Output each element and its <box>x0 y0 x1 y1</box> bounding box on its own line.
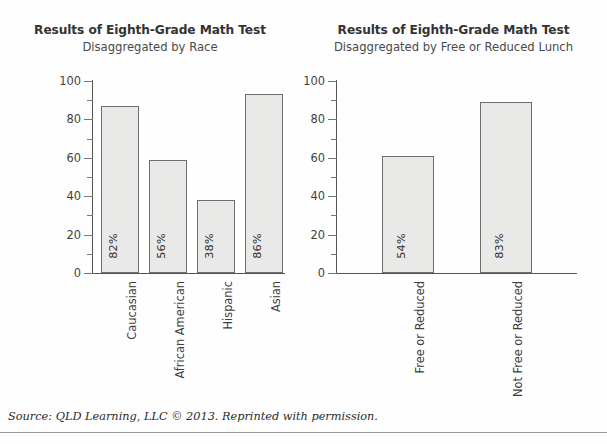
bar-value-free-or-reduced: 54% <box>395 233 408 259</box>
y-tick-label-40: 40 <box>311 189 326 203</box>
x-axis-line <box>336 273 577 274</box>
chart-title-block-right: Results of Eighth-Grade Math Test Disagg… <box>300 22 607 55</box>
chart-title: Results of Eighth-Grade Math Test <box>300 22 607 38</box>
x-label-asian: Asian <box>269 281 283 312</box>
y-tick-40 <box>328 196 337 197</box>
chart-title-block-left: Results of Eighth-Grade Math Test Disagg… <box>0 22 300 55</box>
footer-divider <box>0 432 607 433</box>
x-label-african-american: African American <box>173 281 187 379</box>
y-tick-label-80: 80 <box>67 112 82 126</box>
bar-value-african-american: 56% <box>155 233 168 259</box>
chart-panel-race: Results of Eighth-Grade Math Test Disagg… <box>0 0 300 410</box>
y-tick-label-20: 20 <box>67 228 82 242</box>
bar-series-race: 82% 56% 38% 86% <box>93 81 283 273</box>
figure-page: Results of Eighth-Grade Math Test Disagg… <box>0 0 607 444</box>
bar-not-free-or-reduced[interactable]: 83% <box>480 102 532 273</box>
bar-value-caucasian: 82% <box>107 233 120 259</box>
bar-value-hispanic: 38% <box>203 233 216 259</box>
y-tick-label-0: 0 <box>318 266 325 280</box>
y-tick-label-100: 100 <box>303 74 325 88</box>
bar-value-not-free-or-reduced: 83% <box>493 233 506 259</box>
y-tick-20 <box>84 235 93 236</box>
y-tick-label-20: 20 <box>311 228 326 242</box>
x-label-caucasian: Caucasian <box>125 281 139 340</box>
bar-value-asian: 86% <box>251 233 264 259</box>
chart-panel-lunch: Results of Eighth-Grade Math Test Disagg… <box>300 0 607 410</box>
y-tick-40 <box>84 196 93 197</box>
y-tick-100 <box>84 81 93 82</box>
y-tick-0 <box>328 273 337 274</box>
source-note: Source: QLD Learning, LLC © 2013. Reprin… <box>8 410 378 423</box>
bar-series-lunch: 54% 83% <box>337 81 575 273</box>
bar-asian[interactable]: 86% <box>245 94 283 273</box>
x-label-free-or-reduced: Free or Reduced <box>413 281 427 373</box>
y-tick-80 <box>84 119 93 120</box>
y-tick-label-80: 80 <box>311 112 326 126</box>
chart-subtitle: Disaggregated by Race <box>0 39 300 55</box>
bar-free-or-reduced[interactable]: 54% <box>382 156 434 273</box>
y-tick-label-40: 40 <box>67 189 82 203</box>
bar-caucasian[interactable]: 82% <box>101 106 139 273</box>
y-tick-80 <box>328 119 337 120</box>
chart-title: Results of Eighth-Grade Math Test <box>0 22 300 38</box>
chart-subtitle: Disaggregated by Free or Reduced Lunch <box>300 39 607 55</box>
y-tick-20 <box>328 235 337 236</box>
y-tick-60 <box>84 158 93 159</box>
x-label-not-free-or-reduced: Not Free or Reduced <box>511 281 525 397</box>
bar-hispanic[interactable]: 38% <box>197 200 235 273</box>
y-tick-label-100: 100 <box>59 74 81 88</box>
bar-african-american[interactable]: 56% <box>149 160 187 273</box>
x-axis-line <box>92 273 285 274</box>
x-label-hispanic: Hispanic <box>221 281 235 330</box>
y-tick-100 <box>328 81 337 82</box>
y-tick-label-60: 60 <box>311 151 326 165</box>
plot-area-lunch: 100 80 60 40 20 0 54% 83% <box>337 81 575 273</box>
plot-area-race: 100 80 60 40 20 0 82% 56% <box>93 81 283 273</box>
y-tick-label-0: 0 <box>74 266 81 280</box>
y-tick-60 <box>328 158 337 159</box>
y-tick-0 <box>84 273 93 274</box>
y-tick-label-60: 60 <box>67 151 82 165</box>
